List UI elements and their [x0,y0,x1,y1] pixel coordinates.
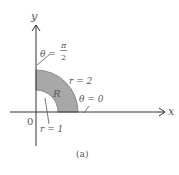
y-axis-label: y [30,10,38,23]
theta-top-denominator: 2 [61,53,66,62]
theta-right-label: θ = 0 [79,94,104,104]
theta-top-numerator: π [60,41,67,50]
figure-caption: (a) [76,149,88,159]
origin-label: 0 [27,116,33,127]
x-axis-label: x [168,105,175,118]
theta-top-label: θ = [40,49,56,59]
polar-region-diagram: y x 0 θ = π 2 r = 2 θ = 0 R r = 1 (a) [0,0,179,175]
r-inner-label: r = 1 [40,124,63,134]
region-label: R [52,88,61,99]
r-outer-label: r = 2 [69,76,93,86]
r-inner-leader [45,98,49,124]
